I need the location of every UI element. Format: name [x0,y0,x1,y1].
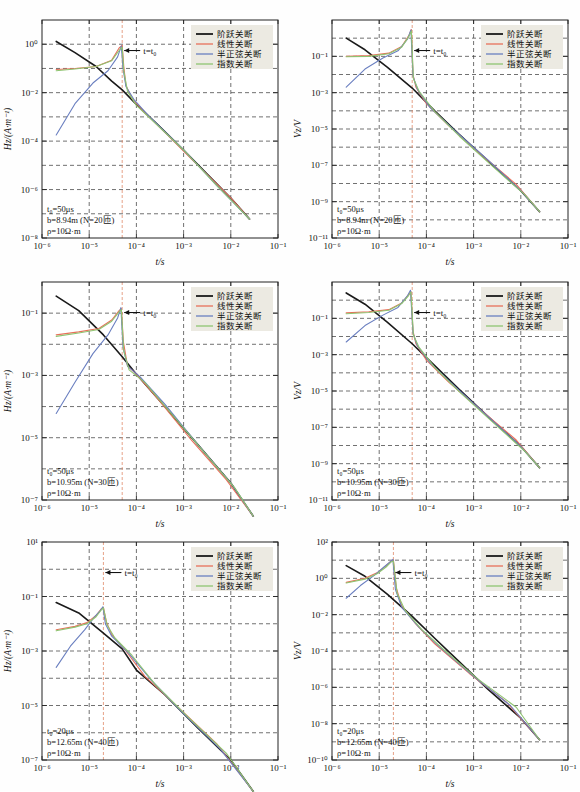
legend-label-2: 线性关断 [217,39,253,49]
y-tick-label: 10⁻⁵ [311,124,328,134]
parameter-line-1: t₀=20μs [47,726,74,736]
y-tick-label: 10² [316,537,328,547]
x-tick-label: 10⁻⁴ [418,763,435,773]
legend: 阶跃关断线性关断半正弦关断指数关断 [191,25,273,69]
y-axis-title: Vz/V [293,641,303,660]
y-tick-label: 10¹ [26,537,38,547]
legend-label-1: 阶跃关断 [507,29,543,39]
parameter-line-3: ρ=10Ω·m [47,226,81,236]
y-tick-label: 10⁻⁵ [21,701,38,711]
y-tick-label: 10⁻⁷ [311,160,328,170]
y-tick-label: 10⁻⁴ [21,136,38,146]
legend: 阶跃关断线性关断半正弦关断指数关断 [481,25,563,69]
y-tick-label: 10⁻⁹ [311,459,328,469]
x-tick-label: 10⁻¹ [270,763,287,773]
y-tick-label: 10⁻³ [311,88,328,98]
x-tick-label: 10⁻⁵ [371,503,388,513]
parameter-line-1: t₀=50μs [47,204,74,214]
legend: 阶跃关断线性关断半正弦关断指数关断 [481,547,563,591]
legend-label-4: 指数关断 [217,59,253,69]
legend-label-4: 指数关断 [507,581,543,591]
x-tick-label: 10⁻² [512,503,529,513]
legend-label-2: 线性关断 [507,39,543,49]
y-tick-label: 10⁻⁸ [311,719,328,729]
x-tick-label: 10⁻³ [175,241,192,251]
y-tick-label: 10⁻² [21,88,38,98]
y-axis-title: Hz/(A·m⁻¹) [3,108,14,151]
parameter-line-3: ρ=10Ω·m [47,488,81,498]
parameter-line-1: t₀=50μs [337,466,364,476]
y-tick-label: 10⁻² [311,610,328,620]
parameter-line-2: b=10.95m (N=30匝) [337,477,409,487]
legend-label-1: 阶跃关断 [507,291,543,301]
y-tick-label: 10⁻⁵ [21,433,38,443]
y-axis-title: Vz/V [293,119,303,138]
parameter-line-3: ρ=10Ω·m [337,488,371,498]
y-tick-label: 10⁻¹ [21,592,38,602]
turnoff-annotation-label: t=t₀ [124,568,137,578]
x-axis-title: t/s [156,257,165,267]
parameter-line-2: b=12.65m (N=40匝) [47,737,119,747]
turnoff-annotation-label: t=t₀ [414,568,427,578]
legend-label-4: 指数关断 [507,321,543,331]
parameter-line-3: ρ=10Ω·m [47,748,81,758]
y-tick-label: 10⁰ [25,39,38,49]
x-tick-label: 10⁻² [512,763,529,773]
y-tick-label: 10⁻⁶ [311,682,328,692]
x-tick-label: 10⁻⁵ [81,241,98,251]
x-tick-label: 10⁻⁵ [371,241,388,251]
x-tick-label: 10⁻³ [175,503,192,513]
legend-label-2: 线性关断 [507,301,543,311]
turnoff-annotation-label: t=t₀ [433,308,446,318]
x-tick-label: 10⁻² [222,241,239,251]
parameter-line-2: b=12.65m (N=40匝) [337,737,409,747]
y-tick-label: 10⁻⁵ [311,386,328,396]
legend-label-4: 指数关断 [217,321,253,331]
chart-panel-6: 10⁻⁶10⁻⁵10⁻⁴10⁻³10⁻²10⁻¹10²10⁰10⁻²10⁻⁴10… [290,528,580,792]
y-tick-label: 10⁻³ [311,350,328,360]
parameter-line-3: ρ=10Ω·m [337,226,371,236]
legend-label-1: 阶跃关断 [217,291,253,301]
y-axis-title: Vz/V [293,381,303,400]
x-tick-label: 10⁻² [512,241,529,251]
turnoff-annotation-label: t=t₀ [143,308,156,318]
legend-label-1: 阶跃关断 [507,551,543,561]
y-tick-label: 10⁻⁶ [21,185,38,195]
x-tick-label: 10⁻¹ [560,763,577,773]
legend-label-2: 线性关断 [507,561,543,571]
chart-panel-4: 10⁻⁶10⁻⁵10⁻⁴10⁻³10⁻²10⁻¹10⁻¹10⁻³10⁻⁵10⁻⁷… [290,268,580,532]
legend-label-4: 指数关断 [217,581,253,591]
y-tick-label: 10⁻⁷ [21,755,38,765]
turnoff-annotation-label: t=t₀ [433,46,446,56]
x-tick-label: 10⁻³ [175,763,192,773]
x-tick-label: 10⁻¹ [270,503,287,513]
parameter-line-1: t₀=50μs [337,204,364,214]
y-tick-label: 10⁻⁴ [311,646,328,656]
legend-label-3: 半正弦关断 [507,571,552,581]
plot-5: 10⁻⁶10⁻⁵10⁻⁴10⁻³10⁻²10⁻¹10¹10⁻¹10⁻³10⁻⁵1… [0,528,290,792]
y-tick-label: 10⁻¹ [311,51,328,61]
x-axis-title: t/s [446,779,455,789]
x-tick-label: 10⁻⁴ [128,241,145,251]
x-tick-label: 10⁻¹ [270,241,287,251]
x-tick-label: 10⁻⁴ [128,763,145,773]
y-tick-label: 10⁻⁹ [311,197,328,207]
y-tick-label: 10⁻³ [21,646,38,656]
x-tick-label: 10⁻⁵ [81,503,98,513]
parameter-line-2: b=10.95m (N=30匝) [47,477,119,487]
parameter-line-2: b=8.94m (N=20匝) [47,215,115,225]
y-tick-label: 10⁻⁷ [21,495,38,505]
legend: 阶跃关断线性关断半正弦关断指数关断 [481,287,563,331]
x-tick-label: 10⁻⁴ [128,503,145,513]
y-tick-label: 10⁻¹ [311,313,328,323]
y-axis-title: Hz/(A·m⁻¹) [3,370,14,413]
chart-panel-3: 10⁻⁶10⁻⁵10⁻⁴10⁻³10⁻²10⁻¹10⁻¹10⁻³10⁻⁵10⁻⁷… [0,268,290,532]
legend-label-2: 线性关断 [217,301,253,311]
parameter-line-2: b=8.94m (N=20匝) [337,215,405,225]
x-tick-label: 10⁻⁴ [418,241,435,251]
legend-label-3: 半正弦关断 [507,49,552,59]
x-tick-label: 10⁻³ [465,503,482,513]
legend-label-3: 半正弦关断 [507,311,552,321]
y-tick-label: 10⁻¹¹ [309,495,329,505]
